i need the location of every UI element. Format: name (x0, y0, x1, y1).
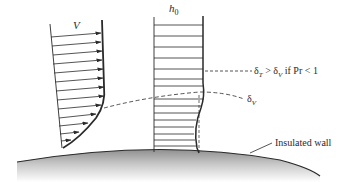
velocity-label: V (73, 20, 80, 31)
subscript-v: V (252, 99, 256, 107)
velocity-profile (50, 20, 104, 148)
boundary-layer-diagram (0, 0, 351, 182)
comparison-text: > δ (263, 65, 278, 76)
enthalpy-profile (154, 16, 204, 153)
prandtl-condition: if Pr < 1 (282, 65, 318, 76)
wall-leader (250, 143, 272, 153)
velocity-axis (50, 24, 62, 148)
enthalpy-label-subscript: 0 (175, 8, 179, 17)
insulated-wall (17, 149, 320, 182)
wall-label: Insulated wall (275, 138, 331, 148)
velocity-arrows (51, 33, 104, 141)
thermal-thickness-label: δT > δV if Pr < 1 (254, 66, 318, 79)
enthalpy-profile-curve (196, 16, 204, 153)
velocity-thickness-label: δV (247, 94, 256, 107)
enthalpy-label: h0 (169, 3, 179, 17)
velocity-profile-curve (63, 20, 104, 148)
